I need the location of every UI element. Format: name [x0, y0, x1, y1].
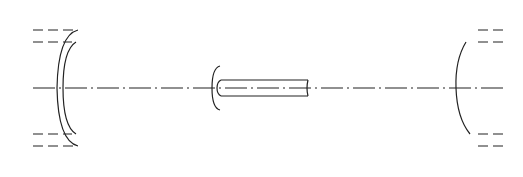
solenoid-diagram [0, 0, 523, 177]
